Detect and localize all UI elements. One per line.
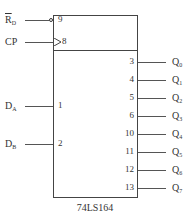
signal-label: Q6	[172, 165, 182, 178]
clock-triangle-icon	[54, 38, 62, 46]
pin-number: 11	[112, 147, 134, 156]
output-wire	[138, 98, 166, 99]
signal-subscript: 4	[179, 134, 182, 140]
signal-label: RD	[5, 15, 16, 28]
signal-label: Q1	[172, 75, 182, 88]
signal-label: CP	[5, 37, 17, 47]
pin-number: 5	[112, 93, 134, 102]
pin-number: 12	[112, 165, 134, 174]
output-wire	[138, 152, 166, 153]
pin-number: 4	[112, 75, 134, 84]
signal-subscript: B	[12, 144, 16, 150]
signal-subscript: A	[12, 106, 16, 112]
pin-number: 6	[112, 111, 134, 120]
signal-label: Q5	[172, 147, 182, 160]
signal-subscript: 1	[179, 80, 182, 86]
pin-number: 8	[62, 37, 67, 46]
signal-label: Q4	[172, 129, 182, 142]
output-wire	[138, 134, 166, 135]
control-section-divider	[53, 50, 138, 51]
input-wire	[25, 42, 53, 43]
signal-label: DA	[5, 101, 17, 114]
output-wire	[138, 62, 166, 63]
output-wire	[138, 80, 166, 81]
output-wire	[138, 188, 166, 189]
output-wire	[138, 116, 166, 117]
pin-number: 13	[112, 183, 134, 192]
pin-number: 2	[58, 139, 63, 148]
signal-label: DB	[5, 139, 16, 152]
output-wire	[138, 170, 166, 171]
pin-number: 9	[58, 15, 63, 24]
pin-number: 3	[112, 57, 134, 66]
signal-label: Q7	[172, 183, 182, 196]
signal-name: CP	[5, 36, 17, 47]
signal-subscript: 3	[179, 116, 182, 122]
input-wire	[25, 144, 53, 145]
signal-subscript: 6	[179, 170, 182, 176]
chip-name: 74LS164	[77, 202, 114, 213]
signal-subscript: 2	[179, 98, 182, 104]
inversion-bubble	[49, 18, 53, 22]
chip-label: 74LS164	[0, 202, 194, 213]
signal-subscript: D	[12, 20, 16, 26]
signal-label: Q3	[172, 111, 182, 124]
input-wire	[25, 106, 53, 107]
signal-label: Q0	[172, 57, 182, 70]
pin-number: 1	[58, 101, 63, 110]
pin-number: 10	[112, 129, 134, 138]
signal-subscript: 7	[179, 188, 182, 194]
signal-subscript: 0	[179, 62, 182, 68]
signal-label: Q2	[172, 93, 182, 106]
input-wire	[25, 20, 49, 21]
signal-subscript: 5	[179, 152, 182, 158]
signal-name: R	[5, 14, 12, 25]
